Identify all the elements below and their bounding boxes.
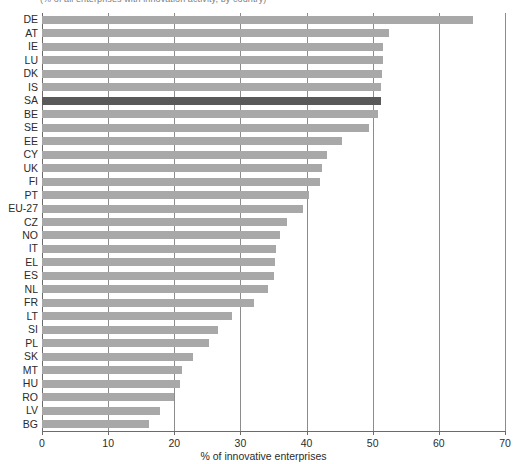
bar-at [42,29,389,37]
bar-si [42,326,218,334]
bar-chart-figure: (% of all enterprises with innovation ac… [0,0,527,464]
y-axis-label-nl: NL [25,284,38,295]
bar-uk [42,164,322,172]
x-tick-10 [108,431,109,435]
bar-nl [42,285,268,293]
bar-ee [42,137,342,145]
x-axis-title: % of innovative enterprises [0,450,527,462]
y-axis-label-it: IT [29,243,38,254]
y-axis-label-hu: HU [23,378,38,389]
bar-el [42,258,275,266]
bar-eu-27 [42,205,303,213]
y-axis-label-be: BE [24,109,38,120]
x-tick-label-40: 40 [287,437,327,449]
x-tick-0 [42,431,43,435]
y-axis-label-el: EL [25,257,38,268]
y-axis-label-fi: FI [29,176,38,187]
y-axis-label-mt: MT [23,365,38,376]
y-axis-label-sk: SK [24,351,38,362]
bar-lv [42,407,160,415]
x-tick-label-60: 60 [419,437,459,449]
x-tick-20 [174,431,175,435]
x-tick-label-70: 70 [485,437,525,449]
bar-ie [42,43,383,51]
bar-de [42,16,473,24]
bar-ro [42,393,174,401]
bar-fr [42,299,254,307]
x-tick-50 [373,431,374,435]
bar-sa [42,97,381,105]
x-tick-label-0: 0 [22,437,62,449]
y-axis-label-bg: BG [23,419,38,430]
bar-sk [42,353,193,361]
bar-bg [42,420,149,428]
bar-hu [42,380,180,388]
bar-is [42,83,381,91]
y-axis-label-no: NO [22,230,38,241]
bar-lt [42,312,232,320]
gridline-70 [505,13,506,431]
y-axis-label-es: ES [24,270,38,281]
bar-pt [42,191,309,199]
y-axis-label-uk: UK [23,163,38,174]
x-axis-line [42,431,506,432]
bar-se [42,124,369,132]
bar-cy [42,151,327,159]
y-axis-label-ro: RO [22,392,38,403]
bar-dk [42,70,382,78]
y-axis-label-cz: CZ [24,217,38,228]
y-axis-label-pt: PT [25,190,38,201]
y-axis-label-dk: DK [23,68,38,79]
bar-fi [42,178,320,186]
bar-lu [42,56,383,64]
bar-no [42,231,280,239]
y-axis-label-eu-27: EU-27 [8,203,38,214]
bar-it [42,245,276,253]
x-tick-30 [240,431,241,435]
gridline-60 [439,13,440,431]
bar-cz [42,218,287,226]
y-axis-label-pl: PL [25,338,38,349]
y-axis-label-de: DE [23,14,38,25]
y-axis-label-is: IS [28,82,38,93]
y-axis-label-ie: IE [28,41,38,52]
x-tick-70 [505,431,506,435]
bar-mt [42,366,182,374]
x-tick-40 [307,431,308,435]
x-tick-label-30: 30 [220,437,260,449]
x-tick-label-20: 20 [154,437,194,449]
x-tick-label-50: 50 [353,437,393,449]
y-axis-label-lu: LU [25,55,38,66]
y-axis-label-si: SI [28,324,38,335]
y-axis-label-at: AT [25,28,38,39]
y-axis-label-se: SE [24,122,38,133]
bar-es [42,272,274,280]
bar-be [42,110,378,118]
y-axis-label-fr: FR [24,297,38,308]
plot-area: DEATIELUDKISSABESEEECYUKFIPTEU-27CZNOITE… [42,13,505,431]
y-axis-label-lv: LV [26,405,38,416]
x-tick-label-10: 10 [88,437,128,449]
y-axis-label-sa: SA [24,95,38,106]
clipped-title-strip: (% of all enterprises with innovation ac… [0,0,527,11]
y-axis-label-ee: EE [24,136,38,147]
bar-pl [42,339,209,347]
chart-title: (% of all enterprises with innovation ac… [40,0,266,4]
y-axis-label-lt: LT [27,311,38,322]
x-tick-60 [439,431,440,435]
y-axis-label-cy: CY [23,149,38,160]
